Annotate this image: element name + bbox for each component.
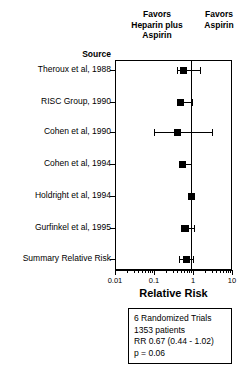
point-estimate-marker [174, 129, 181, 136]
x-tick-minor [177, 270, 178, 273]
x-tick-minor [226, 270, 227, 273]
header-favors-aspirin-line2: Aspirin [194, 20, 244, 31]
x-axis-title: Relative Risk [115, 287, 232, 299]
study-label: Holdright et al, 1994 [0, 190, 111, 200]
ci-cap-upper [193, 256, 194, 263]
y-axis-tick [110, 164, 115, 165]
x-tick-major [193, 270, 194, 275]
x-tick-label: 0.1 [139, 276, 169, 285]
x-tick-label: 10 [217, 276, 247, 285]
point-estimate-marker [179, 161, 186, 168]
x-tick-minor [205, 270, 206, 273]
x-tick-minor [138, 270, 139, 273]
x-tick-minor [216, 270, 217, 273]
summary-patients: 1353 patients [134, 325, 226, 337]
study-label: Theroux et al, 1988 [0, 64, 111, 74]
point-estimate-marker [180, 67, 187, 74]
x-tick-minor [145, 270, 146, 273]
summary-rr: RR 0.67 (0.44 - 1.02) [134, 336, 226, 348]
x-tick-minor [152, 270, 153, 273]
x-tick-label: 0.01 [100, 276, 130, 285]
x-tick-minor [184, 270, 185, 273]
x-tick-major [232, 270, 233, 275]
header-favors-aspirin: Favors Aspirin [194, 9, 244, 30]
x-tick-minor [230, 270, 231, 273]
summary-trials: 6 Randomized Trials [134, 313, 226, 325]
point-estimate-marker [183, 256, 190, 263]
ci-cap-upper [191, 161, 192, 168]
header-favors-heparin: Favors Heparin plus Aspirin [122, 9, 192, 41]
ci-cap-lower [154, 129, 155, 136]
y-axis-tick [110, 70, 115, 71]
header-favors-heparin-line3: Aspirin [122, 30, 192, 41]
x-tick-minor [191, 270, 192, 273]
y-axis-tick [110, 196, 115, 197]
y-axis-tick [110, 102, 115, 103]
x-tick-label: 1 [178, 276, 208, 285]
study-label: Gurfinkel et al, 1995 [0, 222, 111, 232]
study-label: Cohen et al, 1990 [0, 126, 111, 136]
x-tick-minor [187, 270, 188, 273]
x-tick-minor [142, 270, 143, 273]
header-favors-aspirin-line1: Favors [194, 9, 244, 20]
point-estimate-marker [188, 193, 195, 200]
y-axis-tick [110, 228, 115, 229]
point-estimate-marker [182, 225, 189, 232]
y-axis-tick [110, 259, 115, 260]
x-tick-minor [134, 270, 135, 273]
confidence-interval-line [154, 132, 212, 133]
study-label: Summary Relative Risk [0, 253, 111, 263]
y-axis-tick [110, 132, 115, 133]
x-tick-minor [166, 270, 167, 273]
x-tick-minor [228, 270, 229, 273]
x-tick-minor [148, 270, 149, 273]
header-favors-heparin-line1: Favors [122, 9, 192, 20]
x-tick-minor [189, 270, 190, 273]
study-label: RISC Group, 1990 [0, 96, 111, 106]
summary-pvalue: p = 0.06 [134, 348, 226, 360]
x-tick-minor [212, 270, 213, 273]
ci-cap-lower [177, 67, 178, 74]
header-favors-heparin-line2: Heparin plus [122, 20, 192, 31]
study-label: Cohen et al, 1994 [0, 158, 111, 168]
forest-plot: Favors Heparin plus Aspirin Favors Aspir… [0, 0, 247, 374]
x-tick-minor [173, 270, 174, 273]
x-tick-minor [223, 270, 224, 273]
ci-cap-upper [192, 99, 193, 106]
ci-cap-lower [179, 256, 180, 263]
ci-cap-upper [212, 129, 213, 136]
x-tick-minor [181, 270, 182, 273]
x-tick-major [115, 270, 116, 275]
x-tick-minor [150, 270, 151, 273]
summary-statistics-box: 6 Randomized Trials 1353 patients RR 0.6… [128, 308, 232, 364]
ci-cap-upper [200, 67, 201, 74]
source-column-header: Source [5, 49, 111, 59]
x-tick-major [154, 270, 155, 275]
plot-frame [115, 60, 232, 270]
x-tick-minor [220, 270, 221, 273]
x-tick-minor [127, 270, 128, 273]
point-estimate-marker [177, 99, 184, 106]
ci-cap-upper [194, 225, 195, 232]
